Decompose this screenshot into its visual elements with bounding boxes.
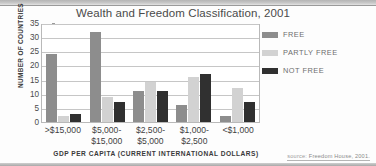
x-axis-tick-label-line: $2,500 xyxy=(172,136,216,147)
legend-label: FREE xyxy=(283,30,305,39)
y-axis-tick-label: 20 xyxy=(14,61,39,70)
x-axis-tick-label: $5,000-$15,000 xyxy=(85,125,129,149)
source-note: source: Freedom House, 2001. xyxy=(287,153,370,161)
y-axis-tick-label: 30 xyxy=(14,33,39,42)
bar-free xyxy=(220,116,231,122)
source-text: Freedom House, 2001. xyxy=(309,153,370,159)
legend-label: NOT FREE xyxy=(283,66,324,75)
y-axis-tick-label: 25 xyxy=(14,47,39,56)
x-axis-tick-label-line: >$15,000 xyxy=(41,125,85,136)
x-axis-tick-label: $2,500-$5,000 xyxy=(129,125,173,149)
legend-label: PARTLY FREE xyxy=(283,48,338,57)
bar-partly xyxy=(102,97,113,122)
bottom-rule xyxy=(0,163,376,166)
x-axis-tick-label-line: <$1,000 xyxy=(216,125,260,136)
x-axis-tick-label-line: $15,000 xyxy=(85,136,129,147)
bar-groups xyxy=(42,25,259,122)
bar-notfree xyxy=(157,91,168,122)
y-axis-tick-label: 10 xyxy=(14,90,39,99)
legend-item[interactable]: NOT FREE xyxy=(262,64,372,77)
legend-swatch-partly xyxy=(262,50,278,56)
x-axis-tick-label: >$15,000 xyxy=(41,125,85,149)
y-axis-tick-label: 35 xyxy=(14,19,39,28)
x-axis-tick-label-line: $5,000- xyxy=(85,125,129,136)
y-axis-tick-label: 5 xyxy=(14,104,39,113)
x-axis-tick-labels: >$15,000$5,000-$15,000$2,500-$5,000$1,00… xyxy=(41,125,260,149)
legend-swatch-notfree xyxy=(262,68,278,74)
bar-notfree xyxy=(244,102,255,122)
bar-partly xyxy=(232,88,243,122)
bar-notfree xyxy=(70,114,81,122)
y-axis-tick-labels: 05101520253035 xyxy=(14,19,39,124)
bar-notfree xyxy=(200,74,211,122)
bar-group xyxy=(42,25,85,122)
bar-notfree xyxy=(114,102,125,122)
bar-group xyxy=(172,25,215,122)
x-axis-tick-label-line: $5,000 xyxy=(129,136,173,147)
bar-free xyxy=(133,91,144,122)
y-axis-tick-label: 0 xyxy=(14,118,39,127)
x-axis-tick-label-line: $1,000- xyxy=(172,125,216,136)
page-title: Wealth and Freedom Classification, 2001 xyxy=(58,7,308,19)
source-prefix: source: xyxy=(287,153,307,159)
x-axis-tick-label-line: $2,500- xyxy=(129,125,173,136)
chart-figure: Wealth and Freedom Classification, 2001 … xyxy=(0,0,376,166)
bar-group xyxy=(129,25,172,122)
x-axis-tick-label: <$1,000 xyxy=(216,125,260,149)
legend: FREEPARTLY FREENOT FREE xyxy=(262,28,372,82)
bar-group xyxy=(85,25,128,122)
bar-group xyxy=(216,25,259,122)
x-axis-title: GDP PER CAPITA (CURRENT INTERNATIONAL DO… xyxy=(20,150,292,157)
top-decorative-band xyxy=(0,0,376,6)
legend-swatch-free xyxy=(262,32,278,38)
y-axis-tick-label: 15 xyxy=(14,76,39,85)
x-axis-tick-label: $1,000-$2,500 xyxy=(172,125,216,149)
bar-partly xyxy=(145,82,156,122)
bar-partly xyxy=(58,116,69,122)
legend-item[interactable]: FREE xyxy=(262,28,372,41)
legend-item[interactable]: PARTLY FREE xyxy=(262,46,372,59)
bar-partly xyxy=(188,77,199,122)
bar-free xyxy=(176,105,187,122)
bar-free xyxy=(90,32,101,123)
plot-area xyxy=(41,24,260,123)
bar-free xyxy=(46,54,57,122)
